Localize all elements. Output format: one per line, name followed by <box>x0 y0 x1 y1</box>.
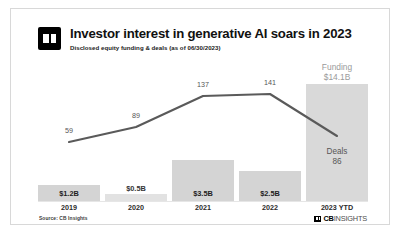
chart-subtitle: Disclosed equity funding & deals (as of … <box>70 44 352 51</box>
header-text: Investor interest in generative AI soars… <box>70 26 352 51</box>
deals-point-label-2019: 59 <box>65 126 73 135</box>
axis-baseline <box>38 201 368 202</box>
source-note: Source: CB Insights <box>39 216 88 221</box>
page-title: Investor interest in generative AI soars… <box>70 26 352 41</box>
cb-insights-mark-icon <box>314 216 321 222</box>
deals-point-label-2021: 137 <box>197 80 209 89</box>
deals-point-label-2020: 89 <box>132 111 140 120</box>
chart-card: Investor interest in generative AI soars… <box>10 8 390 225</box>
x-tick-2023-ytd: 2023 YTD <box>306 203 368 212</box>
x-tick-2019: 2019 <box>38 203 100 212</box>
cb-insights-brand: CB INSIGHTS <box>314 214 367 223</box>
x-tick-2020: 2020 <box>105 203 167 212</box>
cb-insights-square-icon <box>38 27 61 50</box>
brand-cb-text: CB <box>323 214 333 223</box>
chart-header: Investor interest in generative AI soars… <box>38 26 352 51</box>
brand-insights-text: INSIGHTS <box>334 214 367 223</box>
deals-point-label-2022: 141 <box>264 78 276 87</box>
x-tick-2022: 2022 <box>239 203 301 212</box>
chart-plot-area: $1.2B $0.5B $3.5B $2.5B Funding $14.1B D… <box>38 69 368 201</box>
x-tick-2021: 2021 <box>172 203 234 212</box>
